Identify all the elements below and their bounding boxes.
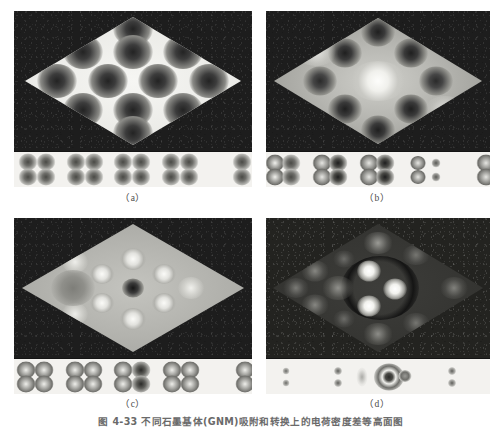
side-motif [283, 379, 290, 386]
density-minimum [51, 270, 95, 306]
panel-label-b: （b） [252, 190, 502, 204]
side-motif [114, 169, 133, 186]
side-motif [334, 379, 342, 387]
side-motif [163, 376, 182, 393]
density-minimum [37, 64, 77, 98]
panel-d-side-view [266, 358, 490, 394]
side-motif [375, 169, 394, 186]
panel-b [266, 11, 490, 186]
density-maximum [120, 308, 146, 330]
density-maximum [357, 261, 381, 282]
side-motif [328, 169, 347, 186]
side-motif [179, 169, 198, 186]
density-minimum [163, 93, 203, 127]
panel-c [14, 218, 252, 393]
panel-label-a: （a） [0, 190, 266, 204]
density-minimum [394, 39, 428, 68]
density-maximum [350, 61, 406, 101]
density-minimum [303, 67, 337, 96]
side-motif [410, 156, 426, 170]
side-motif [448, 367, 456, 375]
panel-b-side-view [266, 151, 490, 187]
side-motif [357, 367, 368, 386]
side-motif [410, 170, 426, 184]
side-motif [432, 158, 441, 167]
panel-label-c: （c） [0, 396, 266, 410]
side-motif [334, 367, 342, 375]
density-minimum [63, 35, 103, 69]
density-minimum [328, 94, 362, 123]
density-maximum [357, 295, 381, 316]
panel-c-plot [14, 218, 252, 358]
panel-c-side-view [14, 358, 252, 394]
density-minimum [113, 35, 153, 69]
density-lobe [363, 323, 393, 345]
density-minimum [189, 64, 229, 98]
side-motif [37, 169, 56, 186]
density-lobe [322, 276, 354, 300]
density-lobe [333, 250, 355, 267]
figure-container: （a） [0, 0, 502, 427]
density-maximum [90, 293, 114, 313]
side-motif [283, 367, 290, 374]
density-minimum [63, 93, 103, 127]
density-maximum [120, 248, 146, 270]
unit-cell-rhombus-a [25, 17, 241, 145]
density-lobe [402, 245, 430, 265]
panel-a-plot [14, 11, 252, 151]
density-lobe [283, 278, 309, 298]
side-motif [83, 376, 102, 393]
density-minimum [163, 35, 203, 69]
side-motif [19, 169, 38, 186]
density-minimum [113, 116, 153, 150]
density-lobe [301, 294, 329, 315]
side-motif [16, 376, 35, 393]
side-motif [162, 169, 181, 186]
side-motif [398, 370, 411, 382]
side-motif [132, 169, 151, 186]
density-minimum [138, 64, 178, 98]
side-motif [281, 169, 300, 186]
side-motif [65, 376, 84, 393]
unit-cell-rhombus-c [22, 224, 244, 352]
side-motif [66, 169, 85, 186]
side-motif [181, 376, 200, 393]
side-motif [84, 169, 103, 186]
side-motif [476, 169, 490, 186]
panel-d [266, 218, 490, 393]
density-maximum [178, 277, 204, 299]
side-motif [132, 376, 151, 393]
panel-a-side-view [14, 151, 252, 187]
panel-a [14, 11, 252, 186]
density-minimum [361, 17, 395, 46]
density-lobe [402, 313, 430, 333]
panel-label-d: （d） [252, 396, 502, 410]
unit-cell-rhombus-d [273, 224, 483, 352]
density-lobe [333, 310, 355, 327]
side-motif [432, 173, 441, 182]
density-minimum [88, 64, 128, 98]
density-lobe [363, 232, 393, 254]
density-maximum [294, 36, 338, 66]
density-lobe [301, 261, 329, 282]
density-maximum [423, 96, 467, 126]
figure-caption: 图 4-33 不同石墨基体(GNM)吸附和转换上的电荷密度差等高面图 [0, 414, 502, 427]
density-minimum [419, 67, 453, 96]
density-lobe [440, 277, 468, 299]
panel-d-plot [266, 218, 490, 358]
density-maximum [152, 293, 176, 313]
density-maximum [152, 264, 176, 284]
unit-cell-rhombus-b [274, 18, 482, 144]
density-maximum [383, 279, 407, 300]
side-motif [448, 379, 456, 387]
side-motif [233, 169, 252, 186]
side-motif [235, 376, 252, 393]
density-minimum [361, 116, 395, 145]
side-motif [114, 376, 133, 393]
side-motif [34, 376, 53, 393]
panel-b-plot [266, 11, 490, 151]
density-minimum [122, 279, 144, 298]
